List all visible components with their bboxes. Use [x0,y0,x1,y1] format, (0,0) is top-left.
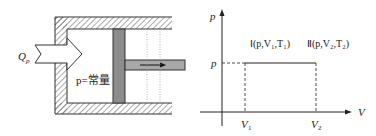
graph-axes [200,9,352,126]
state1-label: Ⅰ(p,V₁,T₁) [250,38,290,50]
v2-sub: 2 [318,124,322,132]
pressure-label: p=常量 [76,74,110,86]
v1-sub: 1 [248,124,252,132]
piston [113,29,125,103]
inlet-label: Q [18,50,26,62]
p-level-label: p [210,57,217,69]
x-axis-label: V [358,106,366,118]
inlet-sub: p [25,57,30,65]
diagram-svg: Q p p=常量 p V p V 1 V 2 Ⅰ(p,V₁,T₁) Ⅱ(p,V₂… [0,0,376,136]
figure: Q p p=常量 p V p V 1 V 2 Ⅰ(p,V₁,T₁) Ⅱ(p,V₂… [0,0,376,136]
y-axis-label: p [209,10,216,22]
state2-label: Ⅱ(p,V₂,T₂) [307,38,349,50]
